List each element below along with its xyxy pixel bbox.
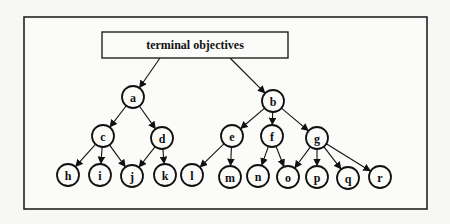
- node-label: h: [65, 169, 72, 183]
- node-label: d: [159, 132, 166, 146]
- node-label: e: [229, 130, 235, 144]
- objectives-tree-diagram: terminal objectives abcdefghijklmnopqr: [0, 0, 450, 224]
- node-r: r: [369, 166, 391, 188]
- node-a: a: [122, 86, 144, 108]
- node-k: k: [154, 164, 176, 186]
- node-label: n: [255, 170, 262, 184]
- node-label: k: [162, 169, 169, 183]
- node-f: f: [261, 125, 283, 147]
- node-g: g: [306, 127, 328, 149]
- node-label: p: [314, 171, 321, 185]
- node-p: p: [306, 166, 328, 188]
- node-c: c: [92, 125, 114, 147]
- node-label: j: [129, 170, 134, 184]
- node-l: l: [181, 164, 203, 186]
- node-q: q: [337, 167, 359, 189]
- node-label: g: [314, 132, 320, 146]
- node-i: i: [89, 164, 111, 186]
- node-e: e: [221, 125, 243, 147]
- node-o: o: [277, 166, 299, 188]
- root-label: terminal objectives: [146, 38, 244, 52]
- node-n: n: [247, 165, 269, 187]
- node-label: c: [100, 130, 106, 144]
- node-m: m: [219, 166, 241, 188]
- node-j: j: [121, 165, 143, 187]
- node-b: b: [262, 90, 284, 112]
- node-label: o: [285, 171, 291, 185]
- node-h: h: [57, 164, 79, 186]
- node-label: q: [345, 172, 352, 186]
- node-label: b: [270, 95, 277, 109]
- node-d: d: [151, 127, 173, 149]
- node-label: r: [377, 171, 383, 185]
- root-node: terminal objectives: [102, 32, 288, 58]
- node-label: a: [130, 91, 136, 105]
- node-label: m: [225, 171, 235, 185]
